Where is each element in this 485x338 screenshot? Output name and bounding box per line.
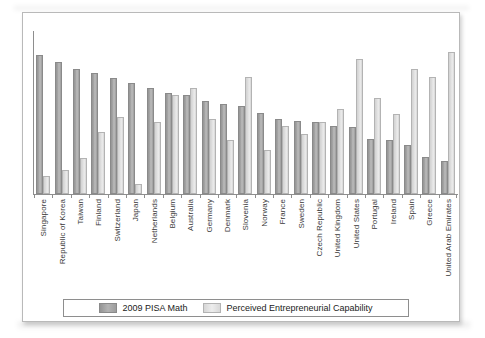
bar-entrepreneurial-capability	[393, 114, 400, 194]
bar-group	[52, 31, 70, 194]
x-axis-tick-label: United States	[351, 199, 360, 248]
bar-entrepreneurial-capability	[429, 77, 436, 194]
bar-pisa-math	[312, 122, 319, 194]
bar-entrepreneurial-capability	[264, 150, 271, 194]
bar-entrepreneurial-capability	[356, 59, 363, 194]
bar-group	[328, 31, 346, 194]
x-axis-tick-label-cell: Czech Republic	[310, 199, 328, 295]
x-axis-tick	[34, 194, 35, 198]
x-axis-tick-label-cell: Singapore	[34, 199, 52, 295]
bar-group	[420, 31, 438, 194]
bar-group	[291, 31, 309, 194]
bar-group	[71, 31, 89, 194]
bar-group	[402, 31, 420, 194]
page-shadow-top	[14, 4, 469, 10]
x-axis-tick	[383, 194, 384, 198]
x-axis-tick-label-cell: Taiwan	[71, 199, 89, 295]
x-axis-tick-label-cell: Norway	[255, 199, 273, 295]
bar-pisa-math	[73, 69, 80, 195]
bar-group	[200, 31, 218, 194]
x-axis-tick	[144, 194, 145, 198]
x-axis-tick-label-cell: Republic of Korea	[52, 199, 70, 295]
x-axis-tick-label-cell: Australia	[181, 199, 199, 295]
bar-group	[218, 31, 236, 194]
bar-entrepreneurial-capability	[448, 52, 455, 194]
x-axis-tick	[365, 194, 366, 198]
x-axis-tick	[236, 194, 237, 198]
bar-entrepreneurial-capability	[319, 122, 326, 194]
x-axis-tick-label: Republic of Korea	[57, 199, 66, 264]
x-axis-tick-label-cell: United Arab Emirates	[439, 199, 457, 295]
bar-entrepreneurial-capability	[227, 140, 234, 194]
bar-entrepreneurial-capability	[190, 88, 197, 194]
bar-group	[34, 31, 52, 194]
x-axis-tick-label: Germany	[204, 199, 213, 233]
x-axis-tick-label-cell: Switzerland	[108, 199, 126, 295]
x-axis-tick-label: United Kingdom	[333, 199, 342, 257]
x-axis-tick-label: Netherlands	[149, 199, 158, 243]
bar-group	[126, 31, 144, 194]
bar-entrepreneurial-capability	[411, 69, 418, 195]
bar-pisa-math	[257, 113, 264, 195]
bar-entrepreneurial-capability	[135, 184, 142, 194]
x-axis-tick-label: Portugal	[370, 199, 379, 230]
x-axis-tick	[402, 194, 403, 198]
bar-entrepreneurial-capability	[301, 134, 308, 194]
x-axis-tick-label: Singapore	[39, 199, 48, 236]
x-axis-tick-label-cell: United States	[347, 199, 365, 295]
bar-pisa-math	[238, 106, 245, 194]
x-axis-tick-label: Sweden	[296, 199, 305, 229]
x-axis-tick	[310, 194, 311, 198]
bar-entrepreneurial-capability	[172, 95, 179, 194]
x-axis-tick-label-cell: Belgium	[163, 199, 181, 295]
x-axis-tick	[89, 194, 90, 198]
bar-group	[163, 31, 181, 194]
x-axis-tick-label-cell: Finland	[89, 199, 107, 295]
x-axis-tick	[126, 194, 127, 198]
bar-pisa-math	[128, 83, 135, 194]
bar-entrepreneurial-capability	[374, 98, 381, 194]
legend-swatch-entrepreneurial-capability	[203, 303, 221, 313]
x-axis-tick-label: Switzerland	[112, 199, 121, 241]
x-axis-tick-label-cell: Germany	[200, 199, 218, 295]
bar-group	[273, 31, 291, 194]
x-axis-tick	[108, 194, 109, 198]
x-axis-tick	[200, 194, 201, 198]
x-axis-tick-label-cell: Slovenia	[236, 199, 254, 295]
x-axis-tick-label: Australia	[186, 199, 195, 231]
bar-entrepreneurial-capability	[43, 176, 50, 194]
bar-pisa-math	[202, 101, 209, 194]
x-axis-tick-label-cell: United Kingdom	[328, 199, 346, 295]
bar-pisa-math	[275, 119, 282, 194]
bar-group	[181, 31, 199, 194]
bar-pisa-math	[367, 139, 374, 194]
x-axis-tick-label: Japan	[131, 199, 140, 221]
x-axis-tick	[439, 194, 440, 198]
bar-pisa-math	[404, 145, 411, 194]
bar-entrepreneurial-capability	[80, 158, 87, 194]
bar-entrepreneurial-capability	[282, 126, 289, 194]
bar-group	[347, 31, 365, 194]
x-axis-tick-labels: SingaporeRepublic of KoreaTaiwanFinlandS…	[34, 199, 457, 295]
x-axis-tick	[218, 194, 219, 198]
legend-swatch-pisa-math	[99, 303, 117, 313]
bar-entrepreneurial-capability	[245, 77, 252, 194]
page-shadow-bottom	[18, 322, 470, 330]
x-axis-tick	[291, 194, 292, 198]
x-axis-tick	[420, 194, 421, 198]
bar-pisa-math	[330, 126, 337, 194]
bar-pisa-math	[441, 161, 448, 194]
legend-item-entrepreneurial-capability: Perceived Entrepreneurial Capability	[203, 303, 372, 313]
bar-group	[365, 31, 383, 194]
x-axis-tick	[163, 194, 164, 198]
bar-group	[89, 31, 107, 194]
bar-group	[310, 31, 328, 194]
bar-pisa-math	[349, 127, 356, 194]
bar-entrepreneurial-capability	[209, 119, 216, 194]
x-axis-tick	[71, 194, 72, 198]
bar-chart-plot	[34, 31, 457, 194]
x-axis-tick-label: Greece	[425, 199, 434, 226]
bar-group	[383, 31, 401, 194]
bar-pisa-math	[110, 78, 117, 194]
x-axis-tick-label-cell: Greece	[420, 199, 438, 295]
